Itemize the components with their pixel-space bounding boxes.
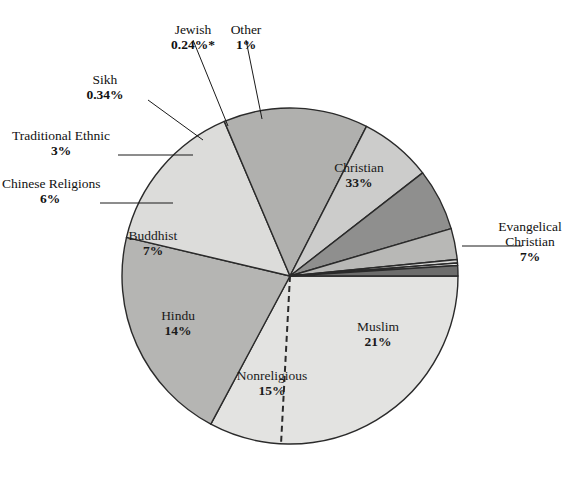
- label-chinese-religions: Chinese Religions 6%: [2, 176, 98, 206]
- label-evangelical-christian-name-line2: Christian: [483, 234, 577, 249]
- label-traditional-ethnic-name: Traditional Ethnic: [5, 128, 117, 143]
- label-other-pct: 1%: [205, 37, 287, 52]
- label-nonreligious: Nonreligious 15%: [217, 368, 327, 399]
- label-evangelical-christian-name-line1: Evangelical: [483, 219, 577, 234]
- label-hindu-name: Hindu: [142, 308, 214, 323]
- label-muslim-name: Muslim: [339, 319, 417, 334]
- label-evangelical-christian: Evangelical Christian 7%: [483, 219, 577, 264]
- label-buddhist-pct: 7%: [111, 243, 195, 258]
- label-christian-name: Christian: [313, 160, 405, 175]
- label-other-name: Other: [205, 22, 287, 37]
- label-christian-pct: 33%: [313, 175, 405, 190]
- label-chinese-religions-pct: 6%: [2, 191, 98, 206]
- label-traditional-ethnic-pct: 3%: [5, 143, 117, 158]
- label-other: Other 1%: [205, 22, 287, 52]
- label-nonreligious-pct: 15%: [217, 383, 327, 398]
- label-muslim-pct: 21%: [339, 334, 417, 349]
- leader-line-jewish: [193, 40, 228, 126]
- label-hindu: Hindu 14%: [142, 308, 214, 339]
- label-sikh: Sikh 0.34%: [62, 72, 148, 102]
- label-hindu-pct: 14%: [142, 323, 214, 338]
- label-traditional-ethnic: Traditional Ethnic 3%: [5, 128, 117, 158]
- label-muslim: Muslim 21%: [339, 319, 417, 350]
- label-chinese-religions-name: Chinese Religions: [2, 176, 98, 191]
- label-buddhist-name: Buddhist: [111, 228, 195, 243]
- leader-line-sikh: [148, 100, 203, 140]
- label-sikh-pct: 0.34%: [62, 87, 148, 102]
- label-sikh-name: Sikh: [62, 72, 148, 87]
- label-evangelical-christian-pct: 7%: [483, 249, 577, 264]
- pie-chart-figure: Jewish 0.24%* Other 1% Sikh 0.34% Tradit…: [0, 0, 580, 479]
- label-christian: Christian 33%: [313, 160, 405, 191]
- label-buddhist: Buddhist 7%: [111, 228, 195, 259]
- label-nonreligious-name: Nonreligious: [217, 368, 327, 383]
